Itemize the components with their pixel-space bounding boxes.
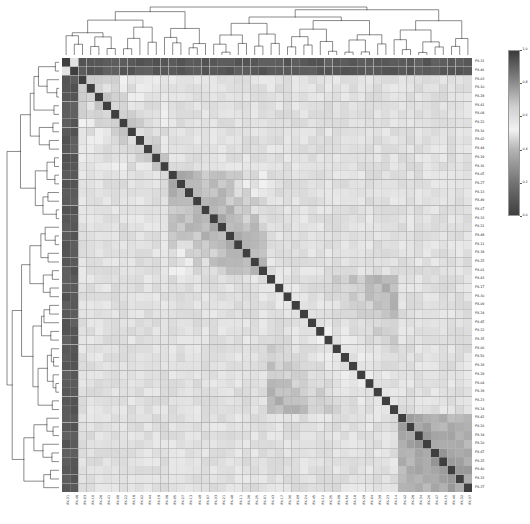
row-tick-label: PX-34 — [475, 434, 484, 437]
row-tick-label: PX-39 — [475, 391, 484, 394]
colorbar-tick-mark — [520, 216, 522, 217]
column-tick-label: PX-06 — [338, 495, 341, 504]
column-dendrogram — [62, 5, 472, 55]
column-tick-label: PX-26 — [412, 495, 415, 504]
column-tick-label: PX-33 — [215, 495, 218, 504]
column-tick-label: PX-13 — [190, 495, 193, 504]
colorbar-tick-mark — [520, 83, 522, 84]
column-tick-label: PX-19 — [158, 495, 161, 504]
column-tick-label: PX-37 — [469, 495, 472, 504]
column-tick-label: PX-30 — [289, 495, 292, 504]
colorbar-tick-label: 0.8 — [522, 82, 527, 85]
column-tick-label: PX-34 — [420, 495, 423, 504]
row-tick-label: PX-25 — [475, 260, 484, 263]
row-tick-label: PX-04 — [475, 382, 484, 385]
row-tick-label: PX-22 — [475, 121, 484, 124]
row-tick-label: PX-01 — [475, 269, 484, 272]
column-tick-label: PX-32 — [461, 495, 464, 504]
row-tick-label: PX-49 — [475, 200, 484, 203]
column-tick-label: PX-10 — [92, 495, 95, 504]
colorbar-tick-mark — [520, 150, 522, 151]
column-tick-label: PX-39 — [379, 495, 382, 504]
row-tick-label: PX-40 — [475, 469, 484, 472]
colorbar-tick-mark — [520, 50, 522, 51]
column-tick-label: PX-45 — [313, 495, 316, 504]
column-tick-label: PX-20 — [428, 495, 431, 504]
column-tick-label: PX-09 — [297, 495, 300, 504]
column-tick-label: PX-02 — [141, 495, 144, 504]
colorbar-tick-mark — [520, 116, 522, 117]
row-tick-label: PX-37 — [475, 486, 484, 489]
colorbar-tick-label: 0.6 — [522, 115, 527, 118]
column-tick-label: PX-31 — [67, 495, 70, 504]
column-tick-label: PX-41 — [108, 495, 111, 504]
column-tick-label: PX-24 — [305, 495, 308, 504]
column-tick-label: PX-21 — [223, 495, 226, 504]
row-tick-label: PX-47 — [475, 451, 484, 454]
column-tick-label: PX-12 — [322, 495, 325, 504]
column-tick-label: PX-27 — [182, 495, 185, 504]
row-tick-label: PX-41 — [475, 104, 484, 107]
column-tick-label: PX-03 — [84, 495, 87, 504]
row-tick-label: PX-02 — [475, 139, 484, 142]
column-tick-label: PX-07 — [207, 495, 210, 504]
row-tick-label: PX-43 — [475, 278, 484, 281]
column-tick-labels: PX-31PX-46PX-03PX-10PX-28PX-41PX-08PX-22… — [62, 495, 472, 523]
row-dendrogram — [5, 58, 59, 492]
row-tick-label: PX-32 — [475, 477, 484, 480]
row-tick-label: PX-19 — [475, 156, 484, 159]
column-tick-label: PX-38 — [248, 495, 251, 504]
colorbar-tick-mark — [520, 183, 522, 184]
row-tick-label: PX-10 — [475, 87, 484, 90]
column-tick-label: PX-22 — [125, 495, 128, 504]
colorbar-tick-label: 0.4 — [522, 148, 527, 151]
row-tick-label: PX-23 — [475, 399, 484, 402]
row-tick-label: PX-11 — [475, 243, 484, 246]
column-tick-label: PX-04 — [371, 495, 374, 504]
row-tick-label: PX-35 — [475, 338, 484, 341]
colorbar-gradient — [508, 50, 520, 216]
column-tick-label: PX-11 — [240, 495, 243, 504]
row-tick-label: PX-07 — [475, 208, 484, 211]
column-tick-label: PX-36 — [166, 495, 169, 504]
row-tick-label: PX-45 — [475, 321, 484, 324]
row-tick-label: PX-05 — [475, 174, 484, 177]
row-tick-label: PX-20 — [475, 443, 484, 446]
heatmap-matrix[interactable] — [62, 58, 472, 492]
row-tick-label: PX-31 — [475, 61, 484, 64]
row-tick-label: PX-12 — [475, 330, 484, 333]
row-tick-label: PX-28 — [475, 95, 484, 98]
row-tick-label: PX-42 — [475, 417, 484, 420]
column-tick-label: PX-44 — [149, 495, 152, 504]
column-tick-label: PX-28 — [100, 495, 103, 504]
column-tick-label: PX-48 — [231, 495, 234, 504]
row-tick-label: PX-48 — [475, 234, 484, 237]
column-tick-label: PX-46 — [76, 495, 79, 504]
row-tick-label: PX-29 — [475, 373, 484, 376]
column-tick-label: PX-40 — [453, 495, 456, 504]
row-tick-label: PX-44 — [475, 147, 484, 150]
row-tick-label: PX-24 — [475, 312, 484, 315]
column-tick-label: PX-47 — [436, 495, 439, 504]
row-tick-label: PX-26 — [475, 425, 484, 428]
heatmap-canvas[interactable] — [62, 58, 472, 492]
column-tick-label: PX-18 — [354, 495, 357, 504]
row-tick-label: PX-50 — [475, 356, 484, 359]
column-tick-label: PX-42 — [404, 495, 407, 504]
row-tick-label: PX-17 — [475, 286, 484, 289]
column-tick-label: PX-15 — [445, 495, 448, 504]
colorbar-legend: 1.00.80.60.40.20.0 — [508, 50, 530, 216]
row-tick-label: PX-13 — [475, 191, 484, 194]
column-tick-label: PX-25 — [256, 495, 259, 504]
row-tick-label: PX-27 — [475, 182, 484, 185]
row-tick-label: PX-03 — [475, 78, 484, 81]
column-tick-label: PX-08 — [117, 495, 120, 504]
row-tick-label: PX-16 — [475, 130, 484, 133]
colorbar-tick-label: 0.0 — [522, 214, 527, 217]
colorbar-tick-label: 0.2 — [522, 181, 527, 184]
row-tick-label: PX-30 — [475, 295, 484, 298]
row-tick-label: PX-46 — [475, 69, 484, 72]
column-tick-label: PX-17 — [281, 495, 284, 504]
row-tick-label: PX-36 — [475, 165, 484, 168]
colorbar-tick-label: 1.0 — [522, 48, 527, 51]
